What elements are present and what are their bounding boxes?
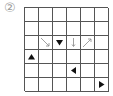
arrow-down-icon xyxy=(67,36,80,49)
grid-cell xyxy=(53,64,67,78)
grid-cell xyxy=(39,36,53,50)
grid-cell xyxy=(25,36,39,50)
grid-cell xyxy=(81,78,95,92)
grid-cell xyxy=(53,36,67,50)
puzzle-grid xyxy=(24,7,108,91)
grid-cell xyxy=(67,78,81,92)
grid-cell xyxy=(81,36,95,50)
grid-cell xyxy=(95,36,109,50)
grid-cell xyxy=(67,50,81,64)
grid-cell xyxy=(53,8,67,22)
triangle-left-icon xyxy=(67,64,80,77)
grid-cell xyxy=(39,50,53,64)
grid-cell xyxy=(95,22,109,36)
grid-cell xyxy=(95,8,109,22)
grid-cell xyxy=(67,22,81,36)
grid-cell xyxy=(81,22,95,36)
triangle-up-icon xyxy=(25,50,38,63)
grid-cell xyxy=(81,50,95,64)
triangle-down-icon xyxy=(53,36,66,49)
grid-cell xyxy=(53,22,67,36)
grid-cell xyxy=(67,64,81,78)
grid-cell xyxy=(53,50,67,64)
grid-cell xyxy=(25,78,39,92)
grid-cell xyxy=(39,78,53,92)
grid-cell xyxy=(25,8,39,22)
grid-cell xyxy=(25,50,39,64)
grid-cell xyxy=(67,8,81,22)
grid-cell xyxy=(95,64,109,78)
arrow-down-right-icon xyxy=(39,36,52,49)
grid-cell xyxy=(39,8,53,22)
grid-cell xyxy=(81,64,95,78)
grid-cell xyxy=(67,36,81,50)
grid-cell xyxy=(95,50,109,64)
grid-cell xyxy=(95,78,109,92)
puzzle-number: ② xyxy=(4,1,16,15)
arrow-up-right-icon xyxy=(81,36,94,49)
grid-cell xyxy=(25,64,39,78)
grid-cell xyxy=(53,78,67,92)
grid-cell xyxy=(25,22,39,36)
grid-cell xyxy=(39,22,53,36)
triangle-right-icon xyxy=(95,78,108,91)
grid-cell xyxy=(81,8,95,22)
grid-cell xyxy=(39,64,53,78)
